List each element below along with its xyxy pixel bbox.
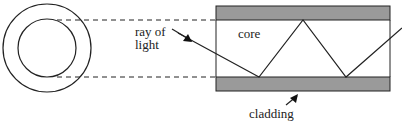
core-label: core	[238, 27, 260, 41]
ray-of-light-label-line2: light	[135, 38, 159, 52]
inner-core-circle	[18, 19, 76, 77]
ray-arrow-head	[183, 34, 192, 42]
light-ray-path	[178, 20, 402, 77]
top-cladding-band	[216, 6, 390, 20]
fibre-diagram	[0, 0, 402, 123]
outer-cladding-circle	[3, 4, 91, 92]
bottom-cladding-band	[216, 77, 390, 91]
cladding-label: cladding	[249, 107, 294, 121]
cladding-arrow-head	[290, 94, 298, 103]
